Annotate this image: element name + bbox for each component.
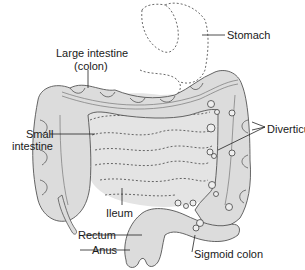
stomach-shape	[142, 3, 208, 83]
label-diverticula: Diverticula	[267, 123, 305, 135]
label-sigmoid-colon: Sigmoid colon	[194, 248, 263, 260]
label-rectum: Rectum	[78, 229, 116, 241]
label-anus: Anus	[92, 244, 117, 256]
label-large-intestine: Large intestine	[56, 47, 128, 59]
label-intestine: intestine	[12, 140, 53, 152]
label-colon: (colon)	[74, 60, 108, 72]
label-ileum: Ileum	[106, 207, 133, 219]
digestive-diagram: Stomach Large intestine (colon) Small in…	[0, 0, 305, 270]
label-stomach: Stomach	[227, 29, 270, 41]
label-small: Small	[26, 128, 54, 140]
